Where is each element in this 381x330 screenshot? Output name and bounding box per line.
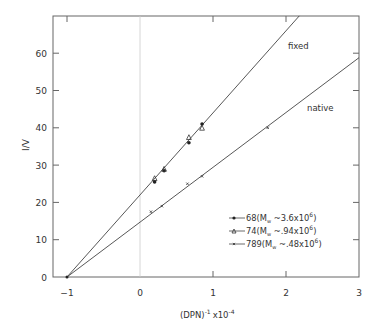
- fixed-line-label: fixed: [288, 41, 309, 51]
- y-tick-label: 10: [36, 235, 48, 245]
- x-tick-label: 0: [137, 288, 143, 298]
- legend-entry-789: 789(Mw ~.48x106): [229, 237, 322, 250]
- x-tick-label: 3: [356, 288, 362, 298]
- y-tick-label: 20: [36, 198, 48, 208]
- chart: 0102030405060−10123 fixednativeI/V(DPN)-…: [0, 0, 381, 330]
- x-axis-label: (DPN)-1x10-4: [180, 308, 235, 320]
- legend: 68(Mw ~3.6x106)74(Mw ~.94x106)789(Mw ~.4…: [229, 211, 322, 250]
- plot-frame: [53, 16, 359, 277]
- y-axis-label: I/V: [21, 138, 31, 151]
- svg-text:789(Mw ~.48x106): 789(Mw ~.48x106): [246, 237, 322, 250]
- svg-text:68(Mw ~3.6x106): 68(Mw ~3.6x106): [246, 211, 316, 224]
- fixed-fit-line: [67, 16, 299, 277]
- x-tick-label: 1: [210, 288, 216, 298]
- native-line-label: native: [307, 103, 334, 113]
- plot-axes: 0102030405060−10123: [36, 16, 362, 298]
- y-tick-label: 30: [36, 161, 48, 171]
- x-intercept-point: [66, 276, 69, 279]
- legend-entry-68: 68(Mw ~3.6x106): [229, 211, 316, 224]
- legend-entry-74: 74(Mw ~.94x106): [229, 224, 316, 237]
- svg-text:74(Mw ~.94x106): 74(Mw ~.94x106): [246, 224, 316, 237]
- y-tick-label: 60: [36, 49, 48, 59]
- y-tick-label: 40: [36, 123, 48, 133]
- x-tick-label: 2: [283, 288, 289, 298]
- x-tick-label: −1: [60, 288, 73, 298]
- y-tick-label: 0: [41, 273, 47, 283]
- native-fit-line: [67, 58, 359, 277]
- y-tick-label: 50: [36, 86, 48, 96]
